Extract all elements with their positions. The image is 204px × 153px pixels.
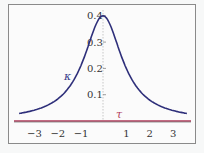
plot-area: 0.10.20.30.4 −3−2−1123 κ τ <box>0 0 204 153</box>
y-tick-label: 0.4 <box>87 10 103 21</box>
x-tick-label: −1 <box>74 128 89 139</box>
x-tick-label: −2 <box>50 128 65 139</box>
tau-label: τ <box>116 108 123 121</box>
x-tick-label: 3 <box>170 128 176 139</box>
y-tick-label: 0.1 <box>87 89 103 100</box>
x-tick-labels: −3−2−1123 <box>27 128 176 139</box>
x-tick-label: −3 <box>27 128 42 139</box>
x-tick-label: 2 <box>147 128 153 139</box>
x-tick-label: 1 <box>123 128 129 139</box>
kappa-label: κ <box>63 70 72 83</box>
y-tick-label: 0.2 <box>87 63 103 74</box>
